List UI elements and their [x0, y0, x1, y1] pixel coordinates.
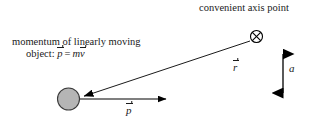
- diagram-canvas: [0, 0, 316, 125]
- p-vector-symbol-inline: p: [57, 48, 62, 60]
- a-distance-label: a: [289, 62, 295, 75]
- v-vector-symbol-inline: v: [80, 48, 85, 60]
- p-vector-symbol: p: [126, 104, 132, 117]
- circle-x-icon: [251, 31, 263, 43]
- r-vector-label: r: [233, 61, 237, 74]
- momentum-caption-line2: object: p=mv: [12, 48, 141, 60]
- r-vector-symbol: r: [233, 61, 237, 74]
- gray-ball-object: [58, 88, 80, 110]
- momentum-caption: momentum of linearly moving object: p=mv: [12, 36, 141, 61]
- axis-point-label: convenient axis point: [199, 2, 289, 14]
- momentum-caption-line1: momentum of linearly moving: [12, 36, 141, 47]
- physics-diagram-figure: convenient axis point momentum of linear…: [0, 0, 316, 125]
- p-vector-label: p: [126, 104, 132, 117]
- momentum-caption-prefix: object:: [26, 48, 55, 59]
